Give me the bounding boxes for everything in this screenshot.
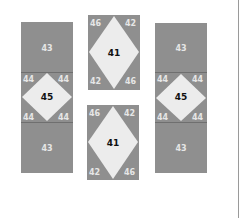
corner-label: 44 — [192, 76, 203, 84]
patch-label: 45 — [171, 93, 191, 101]
right-diamond — [0, 0, 241, 218]
patch-label: 43 — [171, 145, 191, 153]
corner-label: 44 — [157, 76, 168, 84]
corner-label: 44 — [192, 114, 203, 122]
corner-label: 44 — [157, 114, 168, 122]
patch-label: 43 — [171, 45, 191, 53]
